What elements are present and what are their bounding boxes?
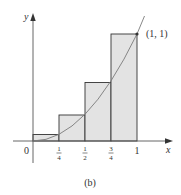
tick-label-one: 1 (135, 145, 140, 156)
rectangle-4 (111, 34, 137, 141)
origin-label: 0 (24, 145, 29, 156)
rectangle-2 (59, 115, 85, 141)
tick-label-quarter: 1 4 (57, 145, 62, 162)
y-axis-arrow-icon (30, 13, 35, 21)
riemann-sum-figure: (1, 1) y x 0 1 4 1 2 3 4 1 (b) (0, 0, 181, 195)
tick-label-half: 1 2 (83, 145, 88, 162)
svg-text:3: 3 (109, 145, 113, 153)
svg-text:2: 2 (83, 154, 87, 162)
tick-label-three-quarters: 3 4 (109, 145, 114, 162)
rectangles (33, 34, 137, 141)
svg-text:1: 1 (57, 145, 61, 153)
point-label: (1, 1) (146, 28, 168, 40)
svg-text:4: 4 (109, 154, 113, 162)
x-axis-arrow-icon (165, 138, 173, 143)
point-1-1-marker (135, 32, 138, 35)
y-axis-label: y (23, 11, 29, 22)
rectangle-3 (85, 83, 111, 142)
svg-text:1: 1 (83, 145, 87, 153)
svg-text:4: 4 (57, 154, 61, 162)
figure-caption: (b) (84, 177, 96, 189)
x-axis-label: x (165, 144, 171, 155)
rectangle-1 (33, 135, 59, 142)
